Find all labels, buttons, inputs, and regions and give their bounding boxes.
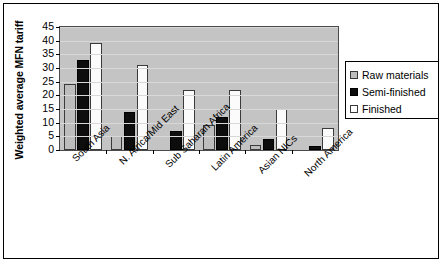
- bar: [250, 145, 262, 150]
- gridline: [60, 54, 338, 55]
- y-axis-tick-35: 35: [42, 47, 54, 59]
- gridline: [60, 27, 338, 28]
- bar: [64, 84, 76, 150]
- y-axis-tickmark: [56, 95, 60, 96]
- bar: [111, 136, 123, 150]
- bar-group: [292, 27, 338, 150]
- y-axis-tick-25: 25: [42, 75, 54, 87]
- bar: [309, 146, 321, 150]
- y-axis-tickmark: [56, 150, 60, 151]
- y-axis-tickmark: [56, 123, 60, 124]
- y-axis-title: Weighted average MFN tariff: [10, 16, 28, 164]
- gridline: [60, 82, 338, 83]
- y-axis-tick-30: 30: [42, 61, 54, 73]
- y-axis-tickmark: [56, 136, 60, 137]
- legend-swatch-icon: [350, 71, 358, 79]
- y-axis-tickmark: [56, 82, 60, 83]
- legend-swatch-icon: [350, 88, 358, 96]
- chart-container: Weighted average MFN tariff 051015202530…: [3, 3, 439, 259]
- legend-swatch-icon: [350, 105, 358, 113]
- legend-label: Semi-finished: [362, 86, 426, 98]
- x-axis-category-labels: South AsiaN. Africa/Mid EastSub Saharan …: [59, 154, 349, 249]
- y-axis-tick-20: 20: [42, 88, 54, 100]
- y-axis-tickmark: [56, 41, 60, 42]
- legend-item-1[interactable]: Semi-finished: [350, 83, 435, 100]
- legend-item-0[interactable]: Raw materials: [350, 66, 435, 83]
- gridline: [60, 95, 338, 96]
- y-axis-tick-5: 5: [48, 129, 54, 141]
- y-axis-tick-0: 0: [48, 143, 54, 155]
- y-axis-tick-45: 45: [42, 20, 54, 32]
- y-axis-tickmark: [56, 68, 60, 69]
- chart-legend: Raw materialsSemi-finishedFinished: [345, 61, 439, 119]
- y-axis-tickmark: [56, 27, 60, 28]
- y-axis-tickmark: [56, 109, 60, 110]
- gridline: [60, 41, 338, 42]
- legend-label: Finished: [362, 103, 402, 115]
- y-axis-tick-15: 15: [42, 102, 54, 114]
- y-axis-tickmark: [56, 54, 60, 55]
- y-axis-title-text: Weighted average MFN tariff: [13, 21, 25, 160]
- legend-label: Raw materials: [362, 69, 429, 81]
- y-axis-tick-labels: 051015202530354045: [30, 21, 56, 156]
- gridline: [60, 109, 338, 110]
- bar: [263, 139, 275, 150]
- y-axis-tick-10: 10: [42, 116, 54, 128]
- gridline: [60, 68, 338, 69]
- y-axis-tick-40: 40: [42, 34, 54, 46]
- legend-item-2[interactable]: Finished: [350, 100, 435, 117]
